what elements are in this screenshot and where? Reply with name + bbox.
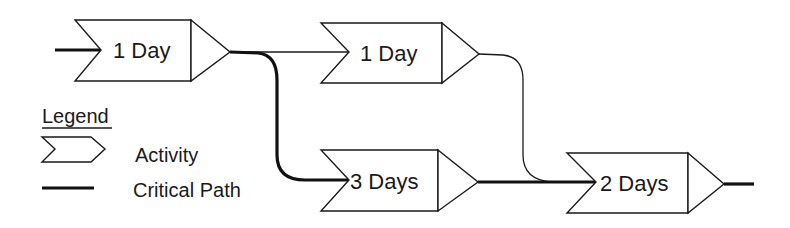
- connector-activity-2-to-activity-4: [479, 54, 552, 182]
- activity-1-label: 1 Day: [113, 38, 170, 63]
- activity-2-label: 1 Day: [360, 41, 417, 66]
- activity-3-label: 3 Days: [350, 169, 418, 194]
- activity-3-arrowhead: [438, 150, 478, 211]
- activity-2-arrowhead: [442, 23, 479, 83]
- activity-1-arrowhead: [191, 20, 230, 81]
- activity-chevron-icon: [42, 137, 105, 162]
- activity-4-arrowhead: [688, 153, 724, 213]
- legend-title: Legend: [42, 105, 109, 127]
- critical-path-diagram: 1 Day 1 Day 3 Days 2 Days Legend Activit…: [0, 0, 790, 228]
- legend-critical-path-label: Critical Path: [133, 179, 241, 201]
- activity-4-label: 2 Days: [600, 171, 668, 196]
- activity-2: 1 Day: [321, 23, 479, 83]
- legend: Legend Activity Critical Path: [42, 105, 241, 201]
- legend-activity-label: Activity: [135, 144, 198, 166]
